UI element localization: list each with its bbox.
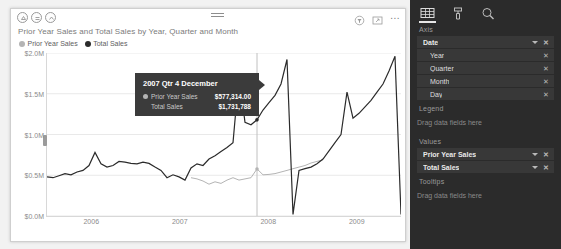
field-actions: ✕ [543, 65, 549, 72]
drill-down-icon[interactable] [31, 12, 42, 23]
well-label-tooltips: Tooltips [410, 174, 561, 188]
y-axis-tick-label: $2.0M [25, 50, 44, 57]
y-axis-tick-label: $0.5M [25, 172, 44, 179]
drill-controls [17, 12, 56, 23]
legend-marker [85, 41, 91, 47]
field-name: Year [430, 52, 444, 59]
chart-tooltip: 2007 Qtr 4 December Prior Year Sales $57… [135, 73, 259, 116]
remove-field-icon[interactable]: ✕ [543, 91, 549, 98]
well-dropzone-legend[interactable]: Drag data fields here [410, 115, 561, 134]
tooltip-title: 2007 Qtr 4 December [143, 79, 251, 88]
visual-header: ... [11, 9, 405, 27]
line-chart-visual[interactable]: ... Prior Year Sales and Total Sales by … [10, 8, 406, 242]
tooltip-row-total-sales: Total Sales $1,731,788 [143, 103, 251, 110]
tooltip-marker [143, 94, 148, 99]
chevron-down-icon[interactable] [532, 153, 538, 156]
field-actions: ✕ [532, 39, 549, 46]
field-chip[interactable]: Date✕ [417, 36, 554, 49]
x-axis-tick-label: 2008 [260, 218, 276, 225]
well-axis[interactable]: Date✕Year✕Quarter✕Month✕Day✕ [417, 36, 554, 101]
legend-label: Total Sales [93, 40, 127, 47]
remove-field-icon[interactable]: ✕ [543, 65, 549, 72]
tooltip-series-value: $577,314.00 [215, 93, 251, 100]
y-axis-tick-label: $1.5M [25, 90, 44, 97]
chevron-down-icon[interactable] [532, 166, 538, 169]
more-options-icon[interactable]: ... [390, 12, 400, 23]
paint-roller-icon[interactable] [450, 6, 466, 20]
chevron-down-icon[interactable] [532, 41, 538, 44]
x-axis-labels: 2006200720082009 [47, 218, 401, 232]
filter-icon[interactable] [354, 12, 365, 23]
field-chip[interactable]: Quarter✕ [417, 62, 554, 75]
app-root: ... Prior Year Sales and Total Sales by … [0, 0, 561, 249]
tooltip-series-name: Prior Year Sales [151, 93, 198, 100]
x-axis-tick-label: 2006 [83, 218, 99, 225]
well-dropzone-tooltips[interactable]: Drag data fields here [410, 188, 561, 207]
legend-item-prior-year-sales[interactable]: Prior Year Sales [19, 40, 78, 47]
visual-header-actions: ... [354, 12, 400, 23]
tooltip-series-value: $1,731,788 [218, 103, 251, 110]
field-name: Day [430, 91, 442, 98]
field-chip[interactable]: Year✕ [417, 49, 554, 62]
field-actions: ✕ [532, 151, 549, 158]
y-axis-labels: $0.0M$0.5M$1.0M$1.5M$2.0M [11, 53, 47, 216]
pane-tab-strip [410, 0, 561, 22]
chart-legend: Prior Year Sales Total Sales [19, 40, 127, 47]
field-actions: ✕ [543, 78, 549, 85]
legend-marker [19, 41, 25, 47]
focus-mode-icon[interactable] [372, 12, 383, 23]
remove-field-icon[interactable]: ✕ [543, 164, 549, 171]
remove-field-icon[interactable]: ✕ [543, 78, 549, 85]
field-name: Month [430, 78, 449, 85]
field-name: Quarter [430, 65, 454, 72]
field-actions: ✕ [543, 91, 549, 98]
tooltip-series-name: Total Sales [151, 103, 183, 110]
field-chip[interactable]: Day✕ [417, 88, 554, 101]
remove-field-icon[interactable]: ✕ [543, 39, 549, 46]
fields-pane: AxisDate✕Year✕Quarter✕Month✕Day✕LegendDr… [410, 0, 561, 249]
expand-hierarchy-icon[interactable] [45, 12, 56, 23]
remove-field-icon[interactable]: ✕ [543, 151, 549, 158]
tooltip-marker [143, 104, 148, 109]
x-axis-tick-label: 2009 [349, 218, 365, 225]
field-actions: ✕ [532, 164, 549, 171]
field-chip[interactable]: Prior Year Sales✕ [417, 148, 554, 161]
y-axis-tick-label: $1.0M [25, 131, 44, 138]
field-wells: AxisDate✕Year✕Quarter✕Month✕Day✕LegendDr… [410, 22, 561, 207]
well-label-axis: Axis [410, 22, 561, 36]
legend-item-total-sales[interactable]: Total Sales [85, 40, 128, 47]
magnifier-icon[interactable] [480, 6, 496, 20]
field-chip[interactable]: Month✕ [417, 75, 554, 88]
field-name: Prior Year Sales [423, 151, 476, 158]
data-point-marker [255, 118, 259, 122]
visual-title: Prior Year Sales and Total Sales by Year… [18, 27, 238, 36]
tooltip-row-prior-year-sales: Prior Year Sales $577,314.00 [143, 93, 251, 100]
tooltip-pointer [259, 80, 265, 90]
well-values[interactable]: Prior Year Sales✕Total Sales✕ [417, 148, 554, 174]
field-actions: ✕ [543, 52, 549, 59]
legend-label: Prior Year Sales [28, 40, 78, 47]
well-label-legend: Legend [410, 101, 561, 115]
data-point-marker [255, 167, 259, 171]
fields-table-icon[interactable] [420, 6, 436, 20]
hamburger-icon [211, 13, 224, 20]
field-name: Date [423, 39, 438, 46]
drill-up-icon[interactable] [17, 12, 28, 23]
remove-field-icon[interactable]: ✕ [543, 52, 549, 59]
well-label-values: Values [410, 134, 561, 148]
x-axis-tick-label: 2007 [172, 218, 188, 225]
x-axis-line [46, 216, 401, 217]
y-axis-tick-label: $0.0M [25, 213, 44, 220]
field-chip[interactable]: Total Sales✕ [417, 161, 554, 174]
field-name: Total Sales [423, 164, 459, 171]
